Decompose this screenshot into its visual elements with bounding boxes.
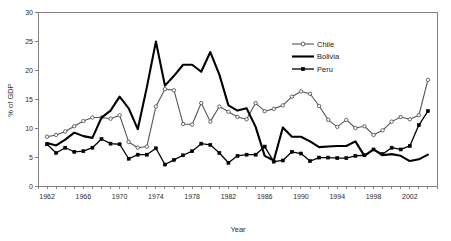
- data-point-chile: [245, 118, 248, 121]
- data-point-chile: [63, 130, 66, 133]
- data-point-chile: [118, 114, 121, 117]
- data-point-peru: [363, 154, 366, 157]
- chart-legend: ChileBoliviaPeru: [292, 40, 340, 74]
- data-point-chile: [254, 101, 257, 104]
- y-tick-label: 5: [29, 154, 33, 161]
- data-point-chile: [417, 114, 420, 117]
- data-point-peru: [91, 146, 94, 149]
- data-point-peru: [46, 143, 49, 146]
- y-tick-label: 25: [25, 38, 33, 45]
- data-point-chile: [154, 105, 157, 108]
- data-point-chile: [299, 90, 302, 93]
- x-axis-ticks: 1962196619701974197819821986199019941998…: [38, 186, 437, 200]
- chart-container: 051015202530 196219661970197419781982198…: [0, 0, 451, 241]
- data-point-chile: [172, 89, 175, 92]
- series-line-chile: [47, 80, 428, 148]
- data-point-chile: [91, 116, 94, 119]
- data-point-peru: [272, 160, 275, 163]
- data-point-chile: [336, 125, 339, 128]
- x-tick-label: 1990: [293, 193, 309, 200]
- data-point-peru: [254, 153, 257, 156]
- data-point-peru: [136, 153, 139, 156]
- y-tick-label: 0: [29, 183, 33, 190]
- data-point-peru: [263, 145, 266, 148]
- data-point-peru: [318, 156, 321, 159]
- data-point-peru: [191, 150, 194, 153]
- data-point-peru: [390, 146, 393, 149]
- data-point-chile: [209, 120, 212, 123]
- data-point-chile: [317, 104, 320, 107]
- data-point-peru: [127, 157, 130, 160]
- x-tick-label: 1986: [257, 193, 273, 200]
- data-point-peru: [426, 110, 429, 113]
- data-point-chile: [326, 118, 329, 121]
- data-point-peru: [145, 153, 148, 156]
- data-point-chile: [82, 119, 85, 122]
- data-point-chile: [426, 78, 429, 81]
- data-point-peru: [55, 151, 58, 154]
- data-point-chile: [308, 92, 311, 95]
- data-point-peru: [417, 124, 420, 127]
- data-point-chile: [109, 117, 112, 120]
- data-point-peru: [163, 163, 166, 166]
- data-point-chile: [290, 95, 293, 98]
- data-point-peru: [218, 151, 221, 154]
- x-tick-label: 1982: [221, 193, 237, 200]
- data-point-peru: [281, 159, 284, 162]
- data-point-peru: [245, 153, 248, 156]
- y-tick-label: 15: [25, 96, 33, 103]
- y-axis-ticks: 051015202530: [25, 9, 38, 190]
- data-point-peru: [64, 146, 67, 149]
- data-series-group: [45, 42, 429, 166]
- data-point-chile: [73, 125, 76, 128]
- data-point-chile: [281, 104, 284, 107]
- x-tick-label: 2002: [402, 193, 418, 200]
- data-point-chile: [399, 115, 402, 118]
- data-point-peru: [209, 143, 212, 146]
- data-point-chile: [381, 129, 384, 132]
- data-point-peru: [236, 154, 239, 157]
- data-point-chile: [272, 107, 275, 110]
- data-point-chile: [163, 87, 166, 90]
- data-point-chile: [136, 146, 139, 149]
- data-point-chile: [363, 125, 366, 128]
- data-point-peru: [399, 148, 402, 151]
- y-axis-title: % of GDP: [6, 83, 15, 116]
- data-point-peru: [336, 157, 339, 160]
- data-point-chile: [354, 126, 357, 129]
- data-point-peru: [154, 147, 157, 150]
- data-point-chile: [390, 120, 393, 123]
- data-point-chile: [408, 118, 411, 121]
- data-point-peru: [372, 148, 375, 151]
- y-tick-label: 30: [25, 9, 33, 16]
- series-line-bolivia: [47, 42, 428, 161]
- data-point-chile: [200, 101, 203, 104]
- data-point-peru: [381, 153, 384, 156]
- x-tick-label: 1970: [112, 193, 128, 200]
- data-point-peru: [100, 138, 103, 141]
- x-tick-label: 1962: [39, 193, 55, 200]
- data-point-peru: [82, 150, 85, 153]
- data-point-chile: [236, 115, 239, 118]
- data-point-peru: [309, 160, 312, 163]
- data-point-peru: [354, 154, 357, 157]
- data-point-peru: [73, 150, 76, 153]
- data-point-peru: [200, 142, 203, 145]
- x-tick-label: 1978: [184, 193, 200, 200]
- data-point-chile: [54, 133, 57, 136]
- data-point-peru: [299, 152, 302, 155]
- data-point-peru: [327, 156, 330, 159]
- data-point-chile: [345, 118, 348, 121]
- x-axis-title: Year: [230, 225, 246, 234]
- data-point-peru: [182, 154, 185, 157]
- line-chart: 051015202530 196219661970197419781982198…: [0, 0, 451, 241]
- data-point-chile: [181, 122, 184, 125]
- data-point-peru: [408, 144, 411, 147]
- y-tick-label: 20: [25, 67, 33, 74]
- data-point-chile: [372, 133, 375, 136]
- plot-frame: [38, 12, 437, 186]
- legend-label-chile: Chile: [317, 40, 334, 49]
- data-point-chile: [127, 140, 130, 143]
- x-tick-label: 1966: [76, 193, 92, 200]
- data-point-peru: [227, 161, 230, 164]
